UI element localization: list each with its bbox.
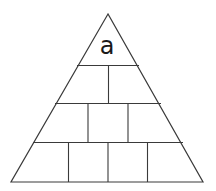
top-cell-label: a	[100, 32, 115, 60]
pyramid-diagram: a	[0, 0, 216, 191]
